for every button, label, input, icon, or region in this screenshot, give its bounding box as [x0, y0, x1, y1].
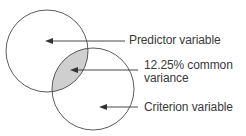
predictor-arrow [45, 38, 125, 44]
predictor-label-text: Predictor variable [129, 34, 221, 47]
predictor-variable-label: Predictor variable [129, 34, 221, 47]
common-variance-label: 12.25% common variance [144, 59, 233, 84]
predictor-circle [6, 10, 88, 92]
criterion-label-text: Criterion variable [144, 101, 233, 114]
criterion-variable-label: Criterion variable [144, 101, 233, 114]
criterion-circle [52, 48, 134, 130]
criterion-arrow [99, 104, 138, 110]
common-variance-line1: 12.25% common [144, 59, 233, 72]
common-variance-line2: variance [144, 72, 233, 85]
